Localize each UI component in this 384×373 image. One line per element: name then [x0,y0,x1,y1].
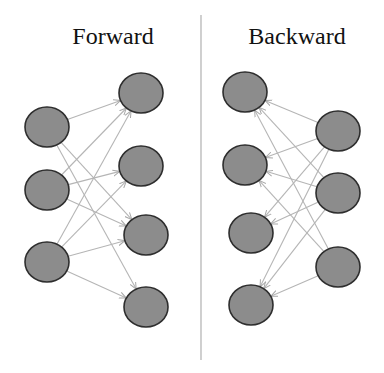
neuron-node-left [223,72,267,112]
neuron-node-input [25,170,69,210]
forward-connection-arrow [62,181,127,247]
backward-connection-arrow [265,139,317,158]
forward-nodes [25,73,168,327]
network-diagram [0,0,384,373]
neuron-node-left [229,285,273,325]
neuron-node-output [124,215,168,255]
backward-connection-arrow [265,100,318,122]
neuron-node-left [229,213,273,253]
neuron-node-left [223,145,267,185]
backward-connection-arrow [265,147,325,217]
forward-connection-arrow [67,271,127,298]
neuron-node-right [316,111,360,151]
neuron-node-output [119,146,163,186]
neuron-node-right [316,247,360,287]
neuron-node-right [316,173,360,213]
neuron-node-input [25,107,69,147]
neuron-node-output [124,287,168,327]
backward-connection-arrow [271,202,319,224]
backward-connection-arrow [271,276,318,297]
forward-connection-arrow [61,142,132,219]
backward-connection-arrow [259,107,324,177]
forward-connection-arrow [67,100,120,119]
neuron-node-input [25,242,69,282]
neuron-node-output [119,73,163,113]
